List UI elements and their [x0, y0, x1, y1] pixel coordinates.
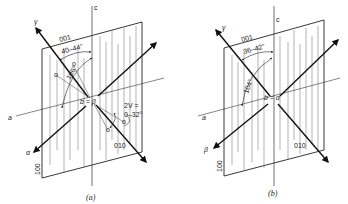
optic-axis-marker: o: [106, 126, 110, 133]
face-001-label: 001: [240, 33, 253, 43]
a-axis-label: a: [8, 114, 12, 121]
c-axis-label: c: [276, 16, 280, 23]
optic-axis-marker: o: [122, 118, 126, 125]
face-100-label: 100: [216, 160, 223, 172]
face-010-label: 010: [114, 142, 126, 149]
angle-top-label: 36–42°: [242, 42, 266, 55]
gamma-label: γ: [222, 24, 226, 32]
panel-b: γ c 001 36–42° 104° b = α a β 010 100 (b…: [198, 6, 340, 198]
optic-axis-marker: o: [54, 71, 58, 78]
twoV-label-line2: 0–32°: [124, 111, 143, 118]
face-010-label: 010: [294, 142, 306, 149]
beta-arrow-upper: [280, 40, 338, 96]
center-label: b = β: [80, 98, 96, 106]
panel-a: γ c 001 40–44° 106° b = β a α 010 100 2V…: [8, 4, 164, 202]
gamma-arrow-lower: [278, 104, 328, 162]
diagram-canvas: γ c 001 40–44° 106° b = β a α 010 100 2V…: [0, 0, 348, 204]
alpha-arrow-upper: [98, 43, 156, 96]
angle-top-label: 40–44°: [60, 42, 84, 55]
face-100-label: 100: [34, 163, 41, 175]
panel-b-caption: (b): [268, 189, 278, 198]
a-axis-label: a: [202, 114, 206, 121]
center-label: b = α: [264, 94, 281, 101]
optic-axis-marker: o: [72, 60, 76, 67]
c-axis-label: c: [94, 4, 98, 11]
beta-label: β: [203, 146, 208, 154]
twoV-label-line1: 2V =: [124, 102, 139, 109]
panel-a-caption: (a): [86, 193, 96, 202]
alpha-label: α: [26, 149, 31, 156]
gamma-label: γ: [34, 18, 38, 26]
beta-arrow: [214, 104, 268, 148]
